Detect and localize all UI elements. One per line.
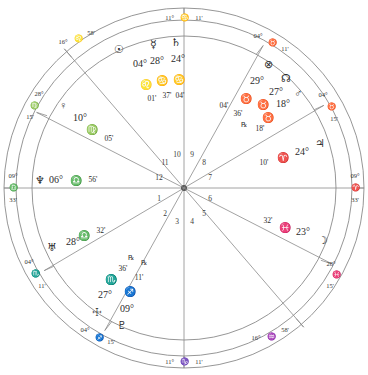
neptune-minute: 56' <box>89 176 98 184</box>
cusp-12-sign-glyph: ♍ <box>30 102 39 110</box>
mc-label: 11° ♋ 11' <box>165 7 202 25</box>
uranus-sign-glyph: ♎ <box>78 231 90 241</box>
house-number-4: 4 <box>190 218 194 226</box>
natal-chart-wheel: 11° ♋ 11' 11° ♑ 11' 09° ♎ 33' 09° ♈ 33' … <box>0 0 368 375</box>
cusp-8-degree: 04° <box>318 92 327 99</box>
moon-minute: 32' <box>264 217 273 225</box>
ascendant-minute: 33' <box>9 197 17 204</box>
cusp-9-degree: 04° <box>253 33 262 40</box>
part-of-fortune-icon: ⊗ <box>264 59 273 70</box>
house-number-10: 10 <box>173 151 181 159</box>
jupiter-sign-glyph: ♈ <box>277 153 289 163</box>
ic-minute: 11' <box>195 358 202 365</box>
house-number-9: 9 <box>190 151 194 159</box>
south-node-retrograde-icon: ℞ <box>128 255 134 262</box>
uranus-minute: 32' <box>97 227 106 235</box>
cusp-9-sign-glyph: ♉ <box>268 39 277 47</box>
cusp-11-minute: 58' <box>87 30 95 37</box>
tick-3 <box>105 321 112 330</box>
venus-minute: 05' <box>105 135 114 143</box>
cusp-5-minute: 58' <box>281 327 289 334</box>
cusp-11-sign-glyph: ♌ <box>74 35 83 43</box>
north-node-minute: 04' <box>220 102 229 110</box>
neptune-sign-glyph: ♎ <box>70 176 82 186</box>
ic-sign-glyph: ♑ <box>180 357 189 366</box>
cusp-line-2 <box>44 188 184 271</box>
cusp-6-minute: 15' <box>326 283 334 290</box>
mercury-degree: 28° <box>150 56 164 66</box>
cusp-2-minute: 11' <box>38 283 45 290</box>
venus-icon: ♀ <box>59 100 67 111</box>
pluto-minute: 11' <box>135 274 144 282</box>
cusp-3-minute: 15' <box>107 339 115 346</box>
house-number-1: 1 <box>157 195 161 203</box>
saturn-sign-glyph: ♋ <box>173 75 185 85</box>
neptune-icon: ♆ <box>35 175 45 186</box>
moon-degree: 23° <box>296 227 310 237</box>
cusp-5-sign-glyph: ♒ <box>267 333 276 341</box>
sun-sign-glyph: ♌ <box>140 80 152 90</box>
house-number-8: 8 <box>202 159 206 167</box>
uranus-icon: ♅ <box>47 242 57 253</box>
saturn-degree: 24° <box>171 54 185 64</box>
south-node-degree: 27° <box>98 290 112 300</box>
saturn-minute: 04' <box>176 92 185 100</box>
jupiter-minute: 10' <box>260 159 269 167</box>
sun-icon: ☉ <box>114 44 124 55</box>
tick-8 <box>314 105 324 109</box>
south-node-icon: ☩ <box>92 307 102 318</box>
ic-degree: 11° <box>165 358 174 365</box>
ascendant-sign-glyph: ♎ <box>9 184 18 192</box>
pluto-sign-glyph: ♐ <box>124 287 136 297</box>
pluto-retrograde-icon: ℞ <box>141 260 147 267</box>
part-of-fortune-sign-glyph: ♉ <box>240 94 252 104</box>
part-of-fortune-degree: 29° <box>250 76 264 86</box>
pluto-degree: 09° <box>120 304 134 314</box>
house-number-2: 2 <box>163 210 167 218</box>
saturn-icon: ♄ <box>171 37 181 48</box>
jupiter-degree: 24° <box>295 147 309 157</box>
descendant-degree: 09° <box>350 173 359 180</box>
cusp-line-9 <box>184 46 263 189</box>
mercury-icon: ☿ <box>150 39 157 50</box>
mars-degree: 18° <box>276 99 290 109</box>
descendant-minute: 33' <box>351 197 359 204</box>
mars-sign-glyph: ♉ <box>262 113 274 123</box>
sun-minute: 01' <box>148 95 157 103</box>
mars-retrograde-icon: ℞ <box>241 122 247 129</box>
pluto-icon: ♇ <box>117 320 127 331</box>
cusp-11-degree: 16° <box>58 39 67 46</box>
ic-label: 11° ♑ 11' <box>165 351 202 369</box>
south-node-sign-glyph: ♏ <box>105 275 117 285</box>
cusp-5-degree: 16° <box>251 335 260 342</box>
cusp-12-minute: 15' <box>26 114 34 121</box>
neptune-degree: 06° <box>49 175 63 185</box>
house-number-7: 7 <box>208 174 212 182</box>
cusp-9-minute: 11' <box>281 46 288 53</box>
venus-sign-glyph: ♍ <box>86 125 98 135</box>
cusp-6-degree: 28° <box>326 261 335 268</box>
mc-minute: 11' <box>195 14 202 21</box>
cusp-8-minute: 15' <box>330 116 338 123</box>
house-number-11: 11 <box>161 159 168 167</box>
ascendant-degree: 09° <box>8 173 17 180</box>
cusp-12-degree: 28° <box>34 91 43 98</box>
cusp-3-sign-glyph: ♐ <box>95 334 104 342</box>
tick-2 <box>44 266 54 270</box>
house-number-6: 6 <box>208 195 212 203</box>
house-number-12: 12 <box>155 174 163 182</box>
north-node-degree: 27° <box>269 87 283 97</box>
cusp-2-sign-glyph: ♏ <box>31 270 40 278</box>
part-of-fortune-minute: 36' <box>234 110 243 118</box>
descendant-sign-glyph: ♈ <box>351 184 360 192</box>
cusp-2-degree: 04° <box>24 259 33 266</box>
mc-sign-glyph: ♋ <box>180 13 189 22</box>
moon-icon: ☽ <box>318 235 328 246</box>
jupiter-icon: ♃ <box>315 138 325 149</box>
mars-minute: 18' <box>256 125 265 133</box>
mercury-minute: 37' <box>163 92 172 100</box>
house-number-5: 5 <box>202 210 206 218</box>
venus-degree: 10° <box>73 113 87 123</box>
south-node-minute: 36' <box>119 265 128 273</box>
sun-degree: 04° <box>133 59 147 69</box>
